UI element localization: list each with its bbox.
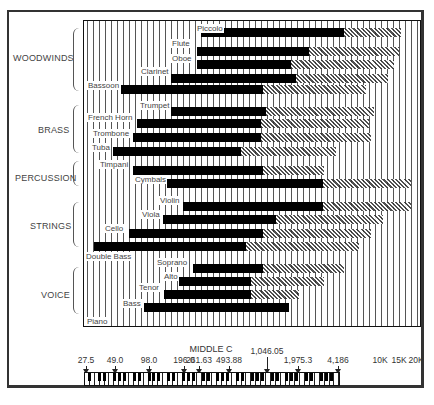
- instrument-label: Piccolo: [196, 24, 224, 33]
- harmonics-range: [263, 229, 371, 238]
- harmonics-range: [241, 147, 336, 156]
- instrument-label: Viola: [141, 210, 161, 219]
- frequency-range-plot: PiccoloFluteOboeClarinetBassoonTrumpetFr…: [83, 20, 421, 327]
- fundamental-range: [197, 60, 291, 69]
- black-key: [138, 373, 141, 381]
- fundamental-range: [163, 215, 276, 224]
- black-key: [330, 373, 333, 381]
- harmonics-range: [344, 28, 401, 37]
- black-key: [133, 373, 136, 381]
- harmonics-range: [261, 119, 369, 128]
- black-key: [202, 373, 205, 381]
- harmonics-range: [266, 107, 374, 116]
- piano-keyboard: [84, 372, 340, 386]
- instrument-bar: [84, 242, 420, 251]
- instrument-label: Double Bass: [85, 252, 132, 261]
- fundamental-range: [94, 242, 246, 251]
- black-key: [241, 373, 244, 381]
- group-label: BRASS: [38, 125, 70, 135]
- harmonics-range: [261, 133, 371, 142]
- black-key: [113, 373, 116, 381]
- harmonics-range: [246, 242, 359, 251]
- instrument-label: Timpani: [99, 160, 129, 169]
- group-brace: [73, 202, 82, 247]
- black-key: [271, 373, 274, 381]
- instrument-bar: [84, 119, 420, 128]
- fundamental-range: [197, 47, 309, 56]
- white-key: [334, 373, 339, 385]
- black-key: [290, 373, 293, 381]
- instrument-bar: [84, 277, 420, 286]
- instrument-label: French Horn: [87, 113, 133, 122]
- group-brace: [73, 105, 82, 153]
- black-key: [88, 373, 91, 381]
- middle-c-label: MIDDLE C: [189, 344, 232, 354]
- fundamental-range: [171, 107, 266, 116]
- harmonics-range: [341, 326, 407, 327]
- fundamental-range: [164, 290, 251, 299]
- arrow-icon: [267, 357, 268, 370]
- black-key: [320, 373, 323, 381]
- harmonics-range: [263, 264, 344, 273]
- fundamental-range: [193, 264, 263, 273]
- fundamental-range: [167, 179, 323, 188]
- black-key: [285, 373, 288, 381]
- instrument-label: Cello: [104, 224, 124, 233]
- fundamental-range: [137, 119, 261, 128]
- fundamental-range: [133, 166, 263, 175]
- frequency-tick-label: 4,186: [327, 355, 348, 365]
- instrument-label: Soprano: [156, 258, 188, 267]
- instrument-label: Cymbals: [134, 175, 167, 184]
- group-label: STRINGS: [30, 221, 71, 231]
- frequency-tick-label: 15K: [391, 355, 406, 365]
- instrument-bar: [84, 47, 420, 56]
- instrument-bar: [84, 202, 420, 211]
- fundamental-range: [171, 74, 296, 83]
- arrow-icon: [86, 366, 87, 370]
- instrument-label: Piano: [86, 317, 108, 326]
- instrument-label: Trombone: [92, 129, 130, 138]
- frequency-tick-label: 493.88: [216, 355, 242, 365]
- instrument-bar: [84, 147, 420, 156]
- instrument-label: Tenor: [138, 283, 160, 292]
- black-key: [157, 373, 160, 381]
- frequency-tick-label: 10K: [372, 355, 387, 365]
- black-key: [216, 373, 219, 381]
- harmonics-range: [296, 74, 388, 83]
- fundamental-range: [144, 303, 289, 312]
- black-key: [192, 373, 195, 381]
- arrow-icon: [229, 366, 230, 370]
- black-key: [226, 373, 229, 381]
- group-label: VOICE: [41, 290, 70, 300]
- fundamental-range: [113, 147, 241, 156]
- arrow-icon: [149, 366, 150, 370]
- harmonics-range: [251, 277, 324, 286]
- frequency-tick-label: 27.5: [78, 355, 95, 365]
- instrument-bar: [84, 107, 420, 116]
- instrument-bar: [84, 264, 420, 273]
- black-key: [103, 373, 106, 381]
- harmonics-range: [291, 60, 394, 69]
- arrow-icon: [199, 366, 200, 370]
- black-key: [251, 373, 254, 381]
- group-label: WOODWINDS: [13, 53, 74, 63]
- harmonics-range: [309, 47, 399, 56]
- frequency-tick-label: 20K: [408, 355, 423, 365]
- fundamental-range: [86, 326, 341, 327]
- instrument-bar: [84, 85, 420, 94]
- black-key: [187, 373, 190, 381]
- black-key: [172, 373, 175, 381]
- instrument-bar: [84, 215, 420, 224]
- black-key: [167, 373, 170, 381]
- black-key: [182, 373, 185, 381]
- frequency-tick-label: 1,975.3: [284, 355, 312, 365]
- black-key: [236, 373, 239, 381]
- black-key: [123, 373, 126, 381]
- group-brace: [73, 161, 82, 186]
- harmonics-range: [276, 215, 383, 224]
- instrument-bar: [84, 133, 420, 142]
- arrow-icon: [184, 366, 185, 370]
- arrow-icon: [115, 366, 116, 370]
- frequency-tick-label: 98.0: [141, 355, 158, 365]
- fundamental-range: [133, 133, 261, 142]
